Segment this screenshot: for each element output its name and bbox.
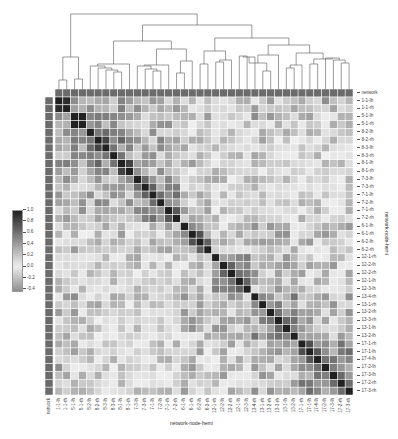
heatmap-cell: [133, 371, 141, 379]
heatmap-cell: [235, 230, 243, 238]
heatmap-cell: [275, 348, 283, 356]
heatmap-cell: [94, 348, 102, 356]
heatmap-cell: [290, 301, 298, 309]
heatmap-cell: [337, 175, 345, 183]
heatmap-cell: [141, 144, 149, 152]
column-label: 17-2-rh: [339, 398, 344, 413]
heatmap-cell: [228, 340, 236, 348]
heatmap-cell: [133, 136, 141, 144]
heatmap-cell: [118, 317, 126, 325]
heatmap-cell: [63, 371, 71, 379]
row-label: 13-2-rh: [357, 310, 376, 315]
heatmap-cell: [173, 340, 181, 348]
network-color-cell: [45, 364, 53, 372]
heatmap-cell: [86, 332, 94, 340]
heatmap-cell: [337, 168, 345, 176]
heatmap-cell: [259, 340, 267, 348]
heatmap-cell: [149, 113, 157, 121]
heatmap-cell: [282, 246, 290, 254]
heatmap-cell: [337, 332, 345, 340]
heatmap-cell: [290, 324, 298, 332]
heatmap-cell: [55, 168, 63, 176]
heatmap-cell: [118, 230, 126, 238]
heatmap-cell: [267, 105, 275, 113]
heatmap-cell: [212, 309, 220, 317]
heatmap-cell: [102, 324, 110, 332]
heatmap-cell: [322, 215, 330, 223]
heatmap-cell: [275, 128, 283, 136]
heatmap-cell: [79, 348, 87, 356]
heatmap-cell: [149, 348, 157, 356]
heatmap-cell: [220, 340, 228, 348]
row-label: 13-1-lh: [357, 326, 376, 331]
heatmap-cell: [173, 230, 181, 238]
heatmap-cell: [282, 215, 290, 223]
heatmap-cell: [180, 293, 188, 301]
heatmap-cell: [235, 97, 243, 105]
heatmap-cell: [173, 238, 181, 246]
heatmap-cell: [86, 128, 94, 136]
heatmap-cell: [196, 113, 204, 121]
heatmap-cell: [126, 324, 134, 332]
heatmap-cell: [157, 254, 165, 262]
heatmap-cell: [275, 270, 283, 278]
heatmap-cell: [94, 356, 102, 364]
heatmap-cell: [235, 340, 243, 348]
heatmap-cell: [94, 301, 102, 309]
heatmap-cell: [243, 254, 251, 262]
heatmap-cell: [55, 152, 63, 160]
heatmap-cell: [251, 152, 259, 160]
heatmap-cell: [314, 144, 322, 152]
heatmap-cell: [204, 364, 212, 372]
heatmap-cell: [86, 105, 94, 113]
heatmap-cell: [165, 238, 173, 246]
heatmap-cell: [337, 254, 345, 262]
heatmap-cell: [251, 207, 259, 215]
heatmap-cell: [71, 332, 79, 340]
heatmap-cell: [345, 183, 353, 191]
heatmap-cell: [71, 238, 79, 246]
heatmap-cell: [290, 332, 298, 340]
heatmap-cell: [173, 160, 181, 168]
heatmap-cell: [71, 207, 79, 215]
heatmap-cell: [329, 191, 337, 199]
heatmap-cell: [86, 301, 94, 309]
heatmap-cell: [337, 238, 345, 246]
heatmap-cell: [126, 364, 134, 372]
heatmap-cell: [157, 387, 165, 395]
heatmap-cell: [110, 136, 118, 144]
heatmap-cell: [267, 277, 275, 285]
heatmap-cell: [212, 136, 220, 144]
heatmap-cell: [118, 379, 126, 387]
heatmap-cell: [220, 293, 228, 301]
heatmap-cell: [259, 191, 267, 199]
heatmap-cell: [220, 230, 228, 238]
heatmap-cell: [298, 246, 306, 254]
heatmap-cell: [204, 238, 212, 246]
row-label: 17-2-lh: [357, 365, 376, 370]
heatmap-cell: [220, 332, 228, 340]
heatmap-cell: [212, 277, 220, 285]
heatmap-cell: [290, 246, 298, 254]
heatmap-cell: [180, 175, 188, 183]
heatmap-cell: [345, 324, 353, 332]
heatmap-cell: [322, 277, 330, 285]
network-color-cell: [45, 387, 53, 395]
row-label: 8-1-lh: [357, 161, 373, 166]
heatmap-cell: [71, 191, 79, 199]
heatmap-cell: [235, 371, 243, 379]
heatmap-cell: [243, 309, 251, 317]
heatmap-cell: [212, 128, 220, 136]
heatmap-cell: [322, 317, 330, 325]
heatmap-cell: [275, 222, 283, 230]
heatmap-cell: [306, 113, 314, 121]
heatmap-cell: [180, 340, 188, 348]
heatmap-cell: [173, 97, 181, 105]
heatmap-cell: [228, 301, 236, 309]
heatmap-cell: [149, 364, 157, 372]
heatmap-cell: [102, 364, 110, 372]
heatmap-cell: [337, 183, 345, 191]
heatmap-cell: [345, 301, 353, 309]
heatmap-cell: [251, 364, 259, 372]
colorbar-tick: 0.4: [23, 242, 33, 247]
